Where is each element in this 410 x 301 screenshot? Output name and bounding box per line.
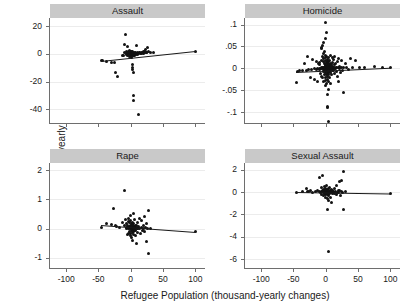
x-tick (326, 269, 327, 272)
data-point (135, 44, 138, 47)
y-tick (241, 214, 244, 215)
data-point (132, 212, 135, 215)
data-point (349, 57, 352, 60)
panel-title-bar-homicide: Homicide (245, 4, 400, 18)
panel-rape: Rape (50, 149, 205, 268)
x-tick (261, 269, 262, 272)
data-point (311, 58, 314, 61)
x-tick-label: 100 (175, 275, 215, 284)
data-point (137, 113, 140, 116)
data-point (316, 80, 319, 83)
x-tick (293, 269, 294, 272)
y-tick-label: -.05 (207, 86, 237, 95)
data-point (145, 222, 148, 225)
data-point (339, 194, 342, 197)
data-point (124, 33, 127, 36)
x-axis-assault (49, 123, 205, 124)
panel-title-assault: Assault (112, 6, 143, 16)
gridline (245, 25, 400, 26)
data-point (146, 46, 149, 49)
data-point (114, 71, 117, 74)
y-tick-label: 0 (12, 224, 42, 233)
y-tick-label: -1 (12, 253, 42, 262)
y-axis-title-wrap: Crime Rate (yearly changes) (0, 0, 16, 290)
data-point (303, 62, 306, 65)
data-point (132, 99, 135, 102)
data-point (323, 50, 326, 53)
panel-title-homicide: Homicide (303, 6, 343, 16)
panel-homicide: Homicide (245, 4, 400, 123)
y-tick (241, 25, 244, 26)
gridline (245, 90, 400, 91)
x-tick (261, 124, 262, 127)
y-tick (241, 237, 244, 238)
y-tick (241, 259, 244, 260)
data-point (145, 240, 148, 243)
data-point (329, 196, 332, 199)
y-axis-sexual-assault (244, 163, 245, 268)
x-tick (195, 124, 196, 127)
data-point (129, 214, 132, 217)
x-tick (390, 124, 391, 127)
y-tick (241, 170, 244, 171)
data-point (306, 55, 309, 58)
y-tick (46, 199, 49, 200)
data-point (329, 82, 332, 85)
y-tick-label: .05 (207, 42, 237, 51)
data-point (126, 45, 129, 48)
data-point (147, 209, 150, 212)
x-tick (98, 124, 99, 127)
gridline (245, 237, 400, 238)
y-tick-label: .1 (207, 20, 237, 29)
data-point (322, 41, 325, 44)
data-point (136, 221, 139, 224)
data-point (327, 250, 330, 253)
y-tick-label: 0 (207, 188, 237, 197)
plot-area-assault (50, 18, 205, 123)
data-point (131, 239, 134, 242)
y-tick-label: -20 (12, 77, 42, 86)
x-tick (326, 124, 327, 127)
data-point (132, 71, 135, 74)
x-tick (358, 124, 359, 127)
y-tick (241, 112, 244, 113)
y-axis-assault (49, 18, 50, 123)
x-axis-sexual-assault (244, 268, 400, 269)
y-tick-label: 20 (12, 22, 42, 31)
y-tick (46, 109, 49, 110)
gridline (245, 259, 400, 260)
y-tick (241, 46, 244, 47)
x-tick (131, 124, 132, 127)
data-point (327, 88, 330, 91)
data-point (152, 51, 155, 54)
data-point (336, 60, 339, 63)
x-axis-title: Refugee Population (thousand-yearly chan… (50, 290, 400, 301)
data-point (342, 208, 345, 211)
x-tick (131, 269, 132, 272)
panel-title-bar-sexual-assault: Sexual Assault (245, 149, 400, 163)
data-point (147, 252, 150, 255)
data-point (342, 170, 345, 173)
x-tick (358, 269, 359, 272)
data-point (340, 59, 343, 62)
y-tick-label: -6 (207, 255, 237, 264)
x-tick (66, 269, 67, 272)
data-point (139, 232, 142, 235)
y-tick (46, 54, 49, 55)
x-tick (163, 269, 164, 272)
data-point (134, 234, 137, 237)
x-tick (163, 124, 164, 127)
panel-sexual-assault: Sexual Assault (245, 149, 400, 268)
data-point (354, 59, 357, 62)
y-tick-label: -4 (207, 232, 237, 241)
gridline (245, 214, 400, 215)
y-axis-rape (49, 163, 50, 268)
y-tick (241, 192, 244, 193)
gridline (50, 26, 205, 27)
gridline (50, 258, 205, 259)
panel-title-sexual-assault: Sexual Assault (291, 151, 353, 161)
data-point (326, 93, 329, 96)
y-tick-label: -40 (12, 105, 42, 114)
data-point (135, 242, 138, 245)
